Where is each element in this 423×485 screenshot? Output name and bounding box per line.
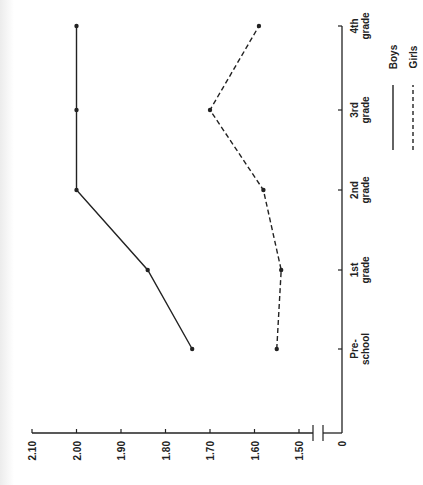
category-label: school <box>360 333 371 365</box>
data-point-boys <box>74 188 78 192</box>
category-label: grade <box>360 176 371 204</box>
data-point-girls <box>279 268 283 272</box>
chart-series <box>74 24 283 351</box>
category-label: 3rd <box>349 102 360 118</box>
category-label: Pre- <box>349 339 360 358</box>
series-line-boys <box>77 26 193 349</box>
data-point-boys <box>74 108 78 112</box>
chart-axes: 2.102.001.901.801.701.601.500Pre-school1… <box>27 12 371 461</box>
data-point-girls <box>208 108 212 112</box>
category-label: 1st <box>349 262 360 277</box>
data-point-boys <box>74 24 78 28</box>
legend-label-boys: Boys <box>388 44 399 69</box>
category-label: 2nd <box>349 181 360 199</box>
category-label: grade <box>360 96 371 124</box>
legend-label-girls: Girls <box>408 45 419 68</box>
value-tick-label: 2.00 <box>72 441 83 461</box>
data-point-boys <box>190 347 194 351</box>
value-zero-label: 0 <box>337 441 348 447</box>
category-label: 4th <box>349 19 360 34</box>
data-point-boys <box>146 268 150 272</box>
value-tick-label: 2.10 <box>27 441 38 461</box>
chart-legend: BoysGirls <box>388 44 419 150</box>
category-label: grade <box>360 12 371 40</box>
value-tick-label: 1.80 <box>161 441 172 461</box>
line-chart: 2.102.001.901.801.701.601.500Pre-school1… <box>0 0 423 485</box>
data-point-girls <box>275 347 279 351</box>
data-point-girls <box>261 188 265 192</box>
data-point-girls <box>257 24 261 28</box>
series-line-girls <box>210 26 281 349</box>
value-tick-label: 1.70 <box>205 441 216 461</box>
value-tick-label: 1.60 <box>250 441 261 461</box>
category-label: grade <box>360 256 371 284</box>
value-tick-label: 1.90 <box>116 441 127 461</box>
value-tick-label: 1.50 <box>294 441 305 461</box>
